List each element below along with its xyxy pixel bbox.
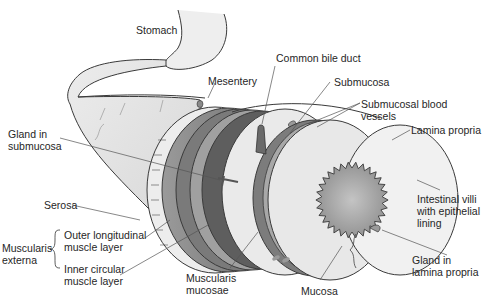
label-gland-in-lamina-propria: Gland in lamina propria [412,254,479,278]
label-intestinal-villi: Intestinal villi with epithelial lining [417,193,480,229]
label-common-bile-duct: Common bile duct [276,52,361,64]
label-serosa: Serosa [44,199,77,211]
label-lamina-propria: Lamina propria [411,124,481,136]
label-stomach: Stomach [136,24,177,36]
label-muscularis-mucosae: Muscularis mucosae [186,272,236,296]
label-submucosa: Submucosa [334,76,389,88]
label-inner-circular: Inner circular muscle layer [64,263,125,287]
label-muscularis-externa: Muscularis externa [2,242,52,266]
label-gland-in-submucosa: Gland in submucosa [8,128,62,152]
label-outer-longitudinal: Outer longitudinal muscle layer [64,229,146,253]
intestine-diagram: Stomach Mesentery Common bile duct Submu… [0,0,486,301]
stomach-shape [165,10,227,69]
label-submucosal-blood-vessels: Submucosal blood vessels [361,98,447,122]
common-bile-duct [256,125,266,154]
label-mesentery: Mesentery [208,75,257,87]
label-mucosa: Mucosa [301,285,338,297]
